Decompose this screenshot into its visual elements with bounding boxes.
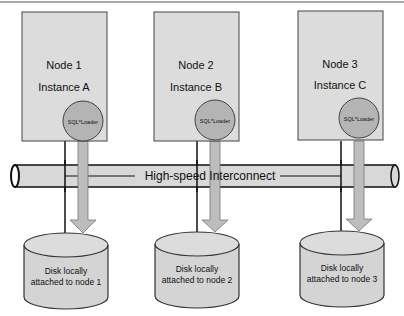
disk-3-label-2: attached to node 3 xyxy=(307,274,378,284)
node-1: Node 1 Instance A SQL*Loader xyxy=(22,12,107,141)
node-3-label: Node 3 xyxy=(322,58,357,70)
node-1-label: Node 1 xyxy=(46,59,81,71)
instance-c-label: Instance C xyxy=(314,79,367,91)
sqlloader-3-label: SQL*Loader xyxy=(344,116,374,122)
disk-1-label-2: attached to node 1 xyxy=(31,277,102,287)
disk-3: Disk locally attached to node 3 xyxy=(300,231,384,307)
sqlloader-2-label: SQL*Loader xyxy=(200,118,230,124)
interconnect-label: High-speed Interconnect xyxy=(145,169,276,183)
node-2: Node 2 Instance B SQL*Loader xyxy=(154,12,239,141)
instance-a-label: Instance A xyxy=(38,81,90,93)
rac-sqlloader-diagram: High-speed Interconnect Node 1 Instance … xyxy=(0,0,404,316)
node-2-label: Node 2 xyxy=(178,59,213,71)
disk-1-label-1: Disk locally xyxy=(45,266,88,276)
disk-2: Disk locally attached to node 2 xyxy=(155,232,239,308)
disk-1: Disk locally attached to node 1 xyxy=(24,233,108,309)
disk-3-label-1: Disk locally xyxy=(321,263,364,273)
disk-2-label-1: Disk locally xyxy=(176,264,219,274)
sqlloader-1-label: SQL*Loader xyxy=(68,119,98,125)
instance-b-label: Instance B xyxy=(170,81,222,93)
node-3: Node 3 Instance C SQL*Loader xyxy=(298,11,383,140)
disk-2-label-2: attached to node 2 xyxy=(162,275,233,285)
